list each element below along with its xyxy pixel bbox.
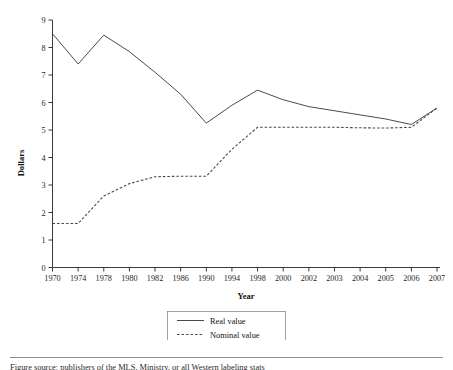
x-tick-label-2007: 2007: [429, 274, 445, 283]
x-tick-label-1970: 1970: [44, 274, 60, 283]
x-tick-label-2003: 2003: [326, 274, 342, 283]
chart-svg: 0123456789 19701974197819801982198619901…: [0, 0, 453, 340]
x-axis-ticks: [53, 268, 438, 272]
x-tick-label-1978: 1978: [96, 274, 112, 283]
y-axis-ticks: [49, 20, 53, 268]
y-tick-label-3: 3: [41, 181, 45, 190]
x-tick-label-1986: 1986: [172, 274, 188, 283]
y-axis-tick-labels: 0123456789: [41, 16, 45, 273]
y-tick-label-7: 7: [41, 71, 45, 80]
y-tick-label-9: 9: [41, 16, 45, 25]
figure-source-note: Figure source: publishers of the MLS, Mi…: [10, 362, 443, 370]
y-tick-label-5: 5: [41, 126, 45, 135]
x-tick-label-1994: 1994: [224, 274, 240, 283]
x-tick-label-1990: 1990: [198, 274, 214, 283]
series-line-nominal-value: [53, 108, 438, 224]
x-axis-title: Year: [237, 291, 254, 301]
y-tick-label-0: 0: [41, 264, 45, 273]
x-tick-label-2006: 2006: [403, 274, 419, 283]
x-tick-label-1998: 1998: [249, 274, 265, 283]
x-tick-label-2004: 2004: [352, 274, 368, 283]
series-line-real-value: [53, 34, 438, 125]
y-tick-label-1: 1: [41, 236, 45, 245]
legend-label-nominal-value: Nominal value: [210, 331, 260, 340]
line-chart: 0123456789 19701974197819801982198619901…: [0, 0, 453, 340]
y-tick-label-4: 4: [41, 154, 45, 163]
y-tick-label-2: 2: [41, 209, 45, 218]
y-tick-label-8: 8: [41, 44, 45, 53]
figure-container: 0123456789 19701974197819801982198619901…: [0, 0, 453, 370]
y-tick-label-6: 6: [41, 99, 45, 108]
x-tick-label-2002: 2002: [301, 274, 317, 283]
x-tick-label-1974: 1974: [70, 274, 86, 283]
x-tick-label-1980: 1980: [121, 274, 137, 283]
chart-legend: Real value Nominal value: [168, 312, 286, 341]
footer-divider: [10, 357, 443, 358]
y-axis-title: Dollars: [16, 149, 26, 176]
x-tick-label-2005: 2005: [378, 274, 394, 283]
x-axis-tick-labels: 1970197419781980198219861990199419982000…: [44, 274, 445, 283]
x-tick-label-2000: 2000: [275, 274, 291, 283]
legend-label-real-value: Real value: [210, 317, 246, 326]
x-tick-label-1982: 1982: [147, 274, 163, 283]
